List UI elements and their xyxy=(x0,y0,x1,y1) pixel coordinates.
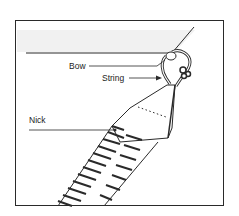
nock-illustration xyxy=(0,0,239,216)
bow-string-contact xyxy=(166,52,176,60)
label-bow: Bow xyxy=(69,62,86,71)
string-arrowhead xyxy=(156,76,162,81)
label-string: String xyxy=(102,74,124,83)
arrow-nock-body xyxy=(112,85,175,142)
bow-limb-shade xyxy=(17,30,195,52)
string-knot xyxy=(180,67,186,73)
nick-point xyxy=(114,129,117,132)
label-nick: Nick xyxy=(29,116,46,125)
